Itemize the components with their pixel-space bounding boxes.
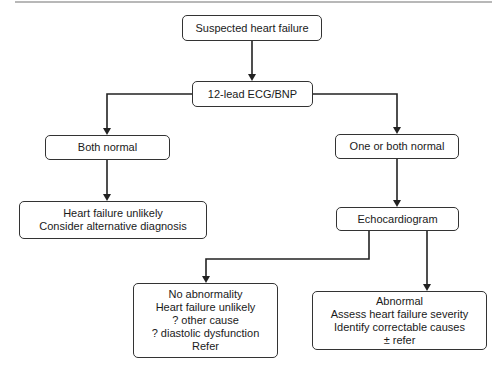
node-label: Heart failure unlikely bbox=[156, 301, 256, 314]
arrow-head-icon bbox=[103, 128, 111, 135]
node-label: ± refer bbox=[384, 334, 416, 347]
node-label: Identify correctable causes bbox=[334, 321, 465, 334]
node-suspected-heart-failure: Suspected heart failure bbox=[182, 15, 322, 41]
edge-echo-no-abnormality bbox=[206, 231, 369, 276]
node-ecg-bnp: 12-lead ECG/BNP bbox=[192, 81, 313, 107]
node-label: Both normal bbox=[78, 141, 137, 154]
node-label: No abnormality bbox=[169, 288, 243, 301]
node-label: Abnormal bbox=[376, 295, 423, 308]
node-label: 12-lead ECG/BNP bbox=[208, 88, 297, 101]
node-label: ? diastolic dysfunction bbox=[152, 327, 260, 340]
arrow-head-icon bbox=[423, 284, 431, 291]
node-label: Refer bbox=[192, 340, 219, 353]
arrow-head-icon bbox=[202, 276, 210, 283]
arrow-head-icon bbox=[248, 74, 256, 81]
arrow-head-icon bbox=[393, 200, 401, 207]
node-label: Echocardiogram bbox=[357, 213, 437, 226]
node-abnormal: Abnormal Assess heart failure severity I… bbox=[312, 291, 487, 350]
node-label: Heart failure unlikely bbox=[63, 207, 163, 220]
edge-test-both-normal bbox=[107, 94, 192, 128]
edge-test-one-or-both bbox=[313, 94, 397, 127]
arrow-head-icon bbox=[393, 127, 401, 134]
node-label: Suspected heart failure bbox=[195, 22, 308, 35]
node-label: ? other cause bbox=[172, 314, 239, 327]
node-echocardiogram: Echocardiogram bbox=[336, 207, 459, 231]
node-heart-failure-unlikely: Heart failure unlikely Consider alternat… bbox=[19, 201, 207, 239]
node-label: One or both normal bbox=[350, 140, 445, 153]
arrow-head-icon bbox=[103, 194, 111, 201]
node-one-or-both-normal: One or both normal bbox=[335, 134, 459, 159]
node-both-normal: Both normal bbox=[45, 135, 170, 160]
node-label: Consider alternative diagnosis bbox=[39, 220, 186, 233]
node-no-abnormality: No abnormality Heart failure unlikely ? … bbox=[133, 283, 278, 358]
node-label: Assess heart failure severity bbox=[331, 308, 469, 321]
